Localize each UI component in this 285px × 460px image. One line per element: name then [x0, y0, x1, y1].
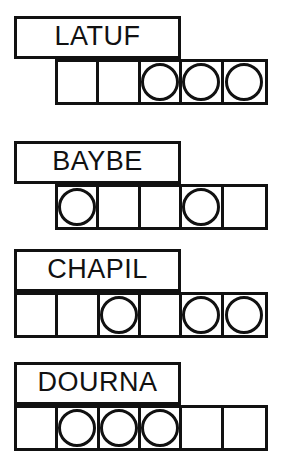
puzzle-sheet: LATUFBAYBECHAPILDOURNA [0, 0, 285, 460]
cell-strip-dourna [14, 405, 268, 451]
letter-cell-plain[interactable] [182, 408, 223, 448]
letter-cell-circled[interactable] [182, 187, 223, 227]
cell-strip-baybe [55, 184, 268, 230]
letter-cell-plain[interactable] [224, 187, 265, 227]
cell-strip-chapil [14, 292, 268, 338]
word-label: BAYBE [52, 148, 143, 175]
letter-cell-circled[interactable] [58, 408, 99, 448]
letter-cell-circled[interactable] [141, 408, 182, 448]
circle-marker-icon [182, 63, 220, 101]
letter-cell-plain[interactable] [224, 408, 265, 448]
circle-marker-icon [58, 188, 96, 226]
letter-cell-circled[interactable] [224, 295, 265, 335]
word-plaque-baybe[interactable]: BAYBE [14, 141, 181, 184]
word-plaque-chapil[interactable]: CHAPIL [14, 249, 181, 292]
circle-marker-icon [141, 409, 179, 447]
circle-marker-icon [100, 296, 138, 334]
letter-cell-circled[interactable] [100, 295, 141, 335]
circle-marker-icon [182, 188, 220, 226]
circle-marker-icon [225, 63, 263, 101]
letter-cell-circled[interactable] [182, 62, 223, 102]
letter-cell-plain[interactable] [141, 187, 182, 227]
letter-cell-circled[interactable] [224, 62, 265, 102]
letter-cell-circled[interactable] [100, 408, 141, 448]
letter-cell-plain[interactable] [17, 408, 58, 448]
word-label: DOURNA [37, 369, 157, 396]
letter-cell-plain[interactable] [99, 187, 140, 227]
circle-marker-icon [182, 296, 220, 334]
word-plaque-dourna[interactable]: DOURNA [14, 362, 181, 405]
circle-marker-icon [100, 409, 138, 447]
word-label: LATUF [54, 23, 140, 50]
circle-marker-icon [141, 63, 179, 101]
circle-marker-icon [225, 296, 263, 334]
letter-cell-plain[interactable] [17, 295, 58, 335]
letter-cell-plain[interactable] [99, 62, 140, 102]
word-label: CHAPIL [47, 256, 148, 283]
letter-cell-circled[interactable] [182, 295, 223, 335]
letter-cell-plain[interactable] [58, 295, 99, 335]
letter-cell-circled[interactable] [58, 187, 99, 227]
circle-marker-icon [58, 409, 96, 447]
letter-cell-plain[interactable] [141, 295, 182, 335]
cell-strip-latuf [55, 59, 268, 105]
letter-cell-plain[interactable] [58, 62, 99, 102]
letter-cell-circled[interactable] [141, 62, 182, 102]
word-plaque-latuf[interactable]: LATUF [14, 16, 181, 59]
